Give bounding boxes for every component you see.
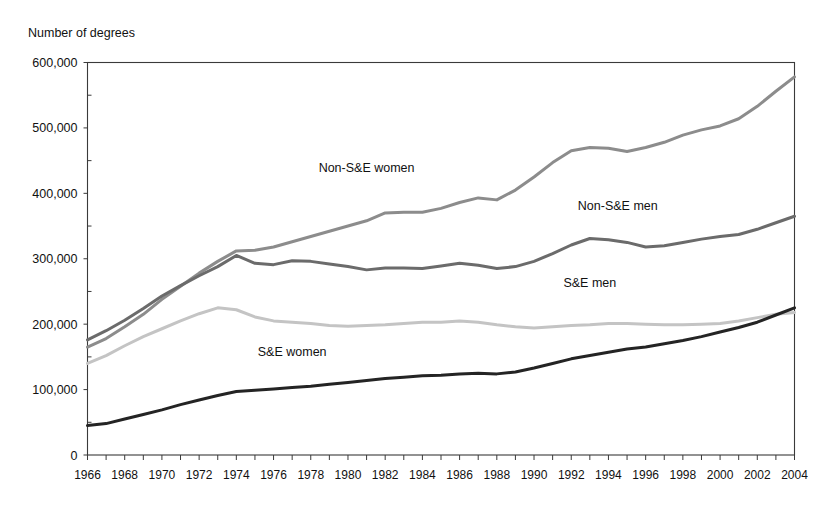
chart-container: Number of degrees 0100,000200,000300,000… <box>0 0 821 517</box>
x-tick-label: 1982 <box>372 468 399 482</box>
y-tick-label: 100,000 <box>32 383 77 397</box>
y-tick-label: 200,000 <box>32 318 77 332</box>
y-axis-title: Number of degrees <box>28 26 135 40</box>
degrees-line-chart: Number of degrees 0100,000200,000300,000… <box>0 0 821 517</box>
plot-area-frame <box>88 63 795 456</box>
y-tick-label: 400,000 <box>32 187 77 201</box>
series-label-s-e-men: S&E men <box>563 276 616 290</box>
series-label-non-s-e-men: Non-S&E men <box>578 199 658 213</box>
x-tick-label: 1970 <box>149 468 176 482</box>
x-tick-label: 1966 <box>74 468 101 482</box>
x-tick-label: 1986 <box>446 468 473 482</box>
x-axis-tick-labels: 1966196819701972197419761978198019821984… <box>74 468 808 482</box>
y-axis-tick-labels: 0100,000200,000300,000400,000500,000600,… <box>32 56 77 463</box>
y-tick-label: 0 <box>71 449 78 463</box>
x-tick-label: 1968 <box>111 468 138 482</box>
y-tick-label: 500,000 <box>32 121 77 135</box>
x-tick-label: 1990 <box>521 468 548 482</box>
series-label-s-e-women: S&E women <box>258 345 327 359</box>
x-tick-label: 1996 <box>632 468 659 482</box>
x-tick-label: 1994 <box>595 468 622 482</box>
x-tick-label: 1978 <box>297 468 324 482</box>
x-tick-label: 1972 <box>186 468 213 482</box>
x-tick-label: 1974 <box>223 468 250 482</box>
y-tick-label: 600,000 <box>32 56 77 70</box>
x-tick-label: 1984 <box>409 468 436 482</box>
x-tick-label: 2000 <box>707 468 734 482</box>
y-tick-label: 300,000 <box>32 252 77 266</box>
x-tick-label: 2002 <box>744 468 771 482</box>
series-label-non-s-e-women: Non-S&E women <box>319 161 415 175</box>
x-tick-label: 1988 <box>483 468 510 482</box>
x-tick-label: 2004 <box>781 468 808 482</box>
x-tick-label: 1992 <box>558 468 585 482</box>
x-tick-label: 1976 <box>260 468 287 482</box>
x-tick-label: 1998 <box>670 468 697 482</box>
x-tick-label: 1980 <box>335 468 362 482</box>
x-axis-ticks <box>88 455 795 460</box>
